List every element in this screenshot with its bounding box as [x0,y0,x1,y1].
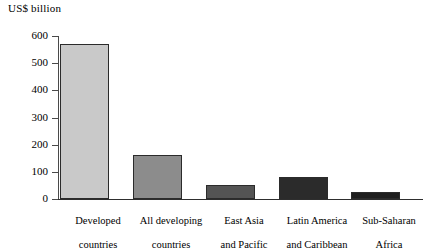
y-tick-mark-400 [52,90,58,91]
y-tick-label-600: 600 [2,30,48,41]
y-tick-mark-200 [52,145,58,146]
y-tick-mark-500 [52,63,58,64]
y-tick-mark-300 [52,118,58,119]
x-axis-line [58,199,423,200]
category-label-line2: Africa [343,239,431,251]
y-tick-label-200: 200 [2,139,48,150]
y-tick-label-0: 0 [2,193,48,204]
y-tick-label-300: 300 [2,112,48,123]
y-tick-label-500: 500 [2,57,48,68]
bar-east-asia-and-pacific [206,185,255,199]
bar-developed-countries [60,44,109,199]
bar-all-developing-countries [133,155,182,199]
y-axis-line [58,36,59,200]
bar-sub-saharan-africa [351,192,400,199]
y-tick-label-100: 100 [2,166,48,177]
bar-latin-america-and-caribbean [279,177,328,199]
y-tick-mark-100 [52,172,58,173]
y-tick-mark-0 [52,199,58,200]
y-tick-mark-600 [52,36,58,37]
category-label-sub-saharan-africa: Sub-Saharan Africa [343,203,431,252]
y-tick-label-400: 400 [2,84,48,95]
category-label-line1: Sub-Saharan [343,215,431,227]
